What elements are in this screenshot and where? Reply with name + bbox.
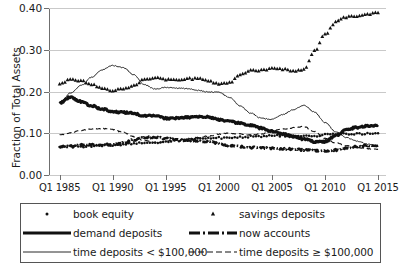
legend-swatch-triangle-marker <box>187 207 239 221</box>
data-marker-dot <box>366 132 369 135</box>
data-marker-triangle <box>363 12 367 16</box>
legend-label: time deposits ≥ $100,000 <box>239 246 373 258</box>
data-marker-dot <box>302 134 305 137</box>
data-marker-dot <box>361 133 364 136</box>
data-marker-triangle <box>140 78 144 82</box>
data-marker-triangle <box>188 76 192 80</box>
data-marker-dot <box>204 137 207 140</box>
legend-swatch-thin-dashed <box>187 245 239 259</box>
chart-figure: Fraction of Total Assets 0.000.100.200.3… <box>0 0 395 196</box>
legend-swatch-thick-solid <box>21 226 73 240</box>
data-marker-dot <box>231 137 234 140</box>
data-marker-dot <box>143 142 146 145</box>
x-tick <box>60 175 61 180</box>
data-marker-dot <box>329 133 332 136</box>
data-marker-dot <box>263 135 266 138</box>
y-tick-label: 0.00 <box>19 169 42 181</box>
x-tick-label: Q1 2015 <box>357 182 398 193</box>
data-marker-triangle <box>204 78 208 82</box>
data-marker-triangle <box>156 76 160 80</box>
data-marker-dot <box>234 136 237 139</box>
data-marker-dot <box>130 143 133 146</box>
x-tick-label: Q1 1990 <box>92 182 133 193</box>
legend-item: time deposits ≥ $100,000 <box>187 243 382 262</box>
data-marker-dot <box>236 136 239 139</box>
data-marker-triangle <box>230 80 234 84</box>
data-marker-dot <box>220 137 223 140</box>
data-series-layer <box>49 8 386 175</box>
data-marker-dot <box>356 132 359 135</box>
data-marker-dot <box>257 135 260 138</box>
y-tick-label: 0.30 <box>19 44 42 56</box>
data-marker-dot <box>133 142 136 145</box>
data-marker-dot <box>310 135 313 138</box>
data-marker-dot <box>135 143 138 146</box>
data-marker-dot <box>247 136 250 139</box>
data-marker-dot <box>207 136 210 139</box>
data-marker-dot <box>268 134 271 137</box>
data-marker-dot <box>374 132 377 135</box>
data-marker-dot <box>377 132 380 135</box>
data-marker-dot <box>271 135 274 138</box>
data-marker-triangle <box>92 83 96 87</box>
data-marker-dot <box>202 137 205 140</box>
data-marker-dot <box>358 132 361 135</box>
data-marker-triangle <box>339 17 343 21</box>
legend-item: now accounts <box>187 223 382 242</box>
data-marker-triangle <box>304 65 308 69</box>
data-marker-dot <box>241 137 244 140</box>
data-marker-triangle <box>193 76 197 80</box>
data-marker-dot <box>353 133 356 136</box>
x-tick <box>378 175 379 180</box>
data-marker-triangle <box>326 31 330 35</box>
data-marker-triangle <box>251 68 255 72</box>
legend-item: demand deposits <box>21 223 187 242</box>
data-marker-triangle <box>328 26 332 30</box>
data-marker-dot <box>313 135 316 138</box>
data-marker-triangle <box>132 83 136 87</box>
data-marker-triangle <box>315 47 319 51</box>
data-marker-dot <box>369 132 372 135</box>
data-marker-dot <box>348 133 351 136</box>
y-tick-label: 0.40 <box>19 2 42 14</box>
data-marker-dot <box>345 132 348 135</box>
legend-label: book equity <box>73 208 134 220</box>
data-marker-dot <box>146 142 149 145</box>
legend-item: time deposits < $100,000 <box>21 243 187 262</box>
data-marker-dot <box>350 133 353 136</box>
series-line <box>60 97 378 143</box>
legend-swatch-dotted-marker <box>21 207 73 221</box>
data-marker-dot <box>226 136 229 139</box>
data-marker-dot <box>149 142 152 145</box>
data-marker-dot <box>252 135 255 138</box>
data-marker-dot <box>260 136 263 139</box>
data-marker-triangle <box>310 52 314 56</box>
data-marker-triangle <box>214 81 218 85</box>
data-marker-dot <box>316 135 319 138</box>
data-marker-triangle <box>366 12 370 16</box>
data-marker-dot <box>305 134 308 137</box>
data-marker-triangle <box>71 77 75 81</box>
data-marker-dot <box>244 136 247 139</box>
data-marker-triangle <box>82 79 86 83</box>
x-tick <box>166 175 167 180</box>
x-tick-label: Q1 2000 <box>198 182 239 193</box>
series-demand-deposits <box>60 97 378 143</box>
data-marker-dot <box>239 135 242 138</box>
data-marker-dot <box>308 135 311 138</box>
data-marker-triangle <box>318 41 322 45</box>
x-tick-label: Q1 1985 <box>39 182 80 193</box>
data-marker-dot <box>228 136 231 139</box>
gridline <box>49 175 386 176</box>
plot-area: 0.000.100.200.300.40 Q1 1985Q1 1990Q1 19… <box>49 8 386 175</box>
x-tick-label: Q1 2010 <box>304 182 345 193</box>
legend-label: now accounts <box>239 227 310 239</box>
data-marker-dot <box>157 142 160 145</box>
data-marker-dot <box>324 133 327 136</box>
y-axis-title: Fraction of Total Assets <box>10 47 22 168</box>
series-savings-deposits <box>58 10 380 92</box>
x-tick-label: Q1 1995 <box>145 182 186 193</box>
data-marker-triangle <box>161 77 165 81</box>
y-tick-label: 0.10 <box>19 127 42 139</box>
y-tick <box>44 175 49 176</box>
